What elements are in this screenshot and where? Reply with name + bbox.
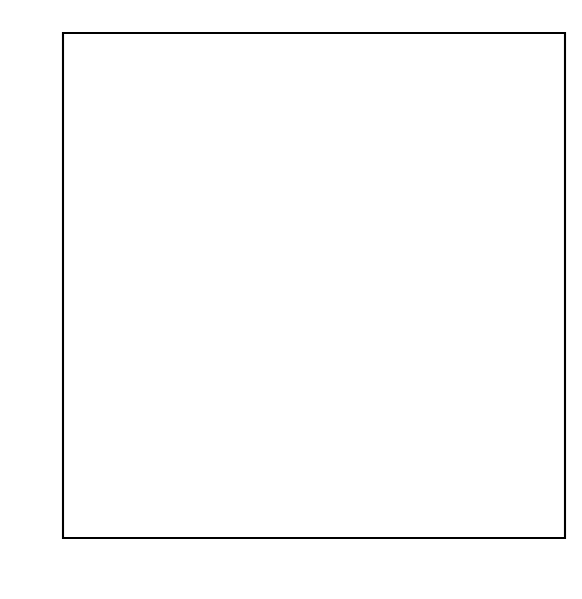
- plot-canvas: [0, 0, 582, 599]
- plot-border: [63, 33, 565, 538]
- axes-group: [63, 33, 565, 538]
- scatter-plot-figure: [0, 0, 582, 599]
